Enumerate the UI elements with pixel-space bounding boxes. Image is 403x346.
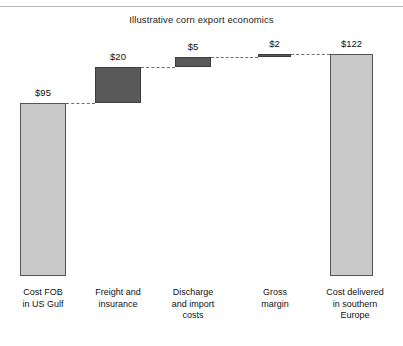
waterfall-chart-figure: Illustrative corn export economics $95$2… — [0, 0, 403, 346]
bar-4 — [330, 54, 373, 276]
value-label-2: $5 — [155, 41, 231, 52]
bar-0 — [20, 103, 66, 276]
category-label-3: Gross margin — [240, 287, 310, 310]
connector-line-1 — [141, 67, 175, 68]
connector-line-3 — [291, 54, 330, 55]
value-label-4: $122 — [310, 38, 393, 49]
bar-3 — [258, 54, 291, 58]
category-label-2: Discharge and import costs — [158, 287, 228, 322]
category-label-1: Freight and insurance — [83, 287, 153, 310]
category-label-4: Cost delivered in southern Europe — [316, 287, 394, 322]
value-label-3: $2 — [238, 38, 311, 49]
bar-2 — [175, 57, 211, 66]
connector-line-0 — [66, 103, 95, 104]
plot-area: $95$20$5$2$122Cost FOB in US GulfFreight… — [0, 0, 403, 346]
value-label-0: $95 — [0, 87, 86, 98]
bar-1 — [95, 67, 141, 103]
value-label-1: $20 — [75, 51, 161, 62]
connector-line-2 — [211, 57, 258, 58]
category-label-0: Cost FOB in US Gulf — [8, 287, 78, 310]
